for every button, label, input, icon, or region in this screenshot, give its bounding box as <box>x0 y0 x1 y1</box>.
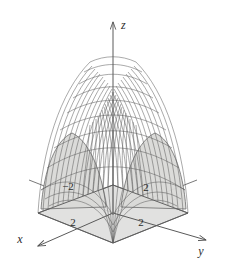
z-axis-label: z <box>120 18 126 32</box>
tick-label-x-negative-two: −2 <box>62 180 74 192</box>
tick-label-x-two-lower: 2 <box>70 216 76 228</box>
tick-label-y-two-upper: 2 <box>143 181 149 193</box>
tick-label-y-two-lower: 2 <box>138 216 144 228</box>
surface-plot-svg: z x y −2 2 2 2 <box>0 0 227 271</box>
figure-canvas: z x y −2 2 2 2 <box>0 0 227 271</box>
x-axis-label: x <box>16 232 23 246</box>
y-axis-label: y <box>197 244 204 258</box>
